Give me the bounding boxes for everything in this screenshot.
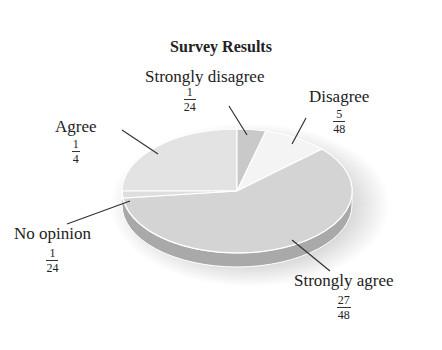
numerator: 27 [337, 294, 351, 308]
label-text: Strongly disagree [145, 68, 264, 86]
denominator: 48 [333, 122, 345, 135]
fraction: 1 24 [46, 247, 58, 274]
denominator: 24 [184, 100, 196, 113]
label-agree: Agree 1 4 [55, 118, 97, 167]
leader-agree [122, 130, 158, 154]
fraction: 1 4 [72, 138, 80, 165]
label-text: Strongly agree [294, 272, 394, 290]
label-disagree: Disagree 5 48 [309, 88, 369, 137]
denominator: 4 [72, 152, 80, 165]
fraction: 27 48 [337, 294, 351, 321]
label-strongly-agree: Strongly agree 27 48 [294, 272, 394, 323]
denominator: 24 [46, 261, 58, 274]
label-strongly-disagree: Strongly disagree 1 24 [145, 68, 264, 115]
denominator: 48 [337, 308, 351, 321]
label-text: Disagree [309, 88, 369, 106]
numerator: 5 [333, 108, 345, 122]
label-no-opinion: No opinion 1 24 [14, 225, 91, 276]
numerator: 1 [72, 138, 80, 152]
label-text: Agree [55, 118, 97, 136]
fraction: 1 24 [184, 86, 196, 113]
numerator: 1 [184, 86, 196, 100]
label-text: No opinion [14, 225, 91, 243]
slice-agree [122, 129, 237, 191]
fraction: 5 48 [333, 108, 345, 135]
numerator: 1 [46, 247, 58, 261]
